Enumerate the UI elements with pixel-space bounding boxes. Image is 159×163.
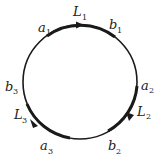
arc-L2 <box>108 86 137 131</box>
svg-text:L: L <box>136 104 146 119</box>
svg-text:3: 3 <box>13 87 18 96</box>
svg-text:a: a <box>38 20 46 35</box>
label-b3: b 3 <box>5 79 18 96</box>
svg-text:3: 3 <box>22 116 27 125</box>
svg-text:a: a <box>141 78 149 93</box>
arrow-L2-icon <box>126 112 134 121</box>
svg-text:2: 2 <box>149 86 154 95</box>
svg-text:L: L <box>72 4 82 19</box>
label-L3: L 3 <box>13 107 27 125</box>
circle-diagram: a 1 L 1 b 1 a 2 L 2 b 2 a 3 L 3 b 3 <box>0 0 159 163</box>
label-b2: b 2 <box>108 138 121 156</box>
arc-L1 <box>47 25 115 37</box>
label-a2: a 2 <box>141 78 154 95</box>
svg-text:2: 2 <box>146 112 151 121</box>
svg-text:1: 1 <box>82 13 87 22</box>
svg-text:3: 3 <box>48 147 53 156</box>
label-a3: a 3 <box>40 138 53 156</box>
svg-text:2: 2 <box>116 147 121 156</box>
svg-text:1: 1 <box>117 26 122 35</box>
label-L1: L 1 <box>72 4 87 22</box>
svg-text:1: 1 <box>46 28 51 37</box>
arrow-L1-icon <box>76 22 84 29</box>
svg-text:a: a <box>40 138 48 153</box>
label-b1: b 1 <box>109 17 122 35</box>
label-L2: L 2 <box>136 104 151 121</box>
label-a1: a 1 <box>38 20 51 37</box>
arc-L3 <box>27 104 70 138</box>
